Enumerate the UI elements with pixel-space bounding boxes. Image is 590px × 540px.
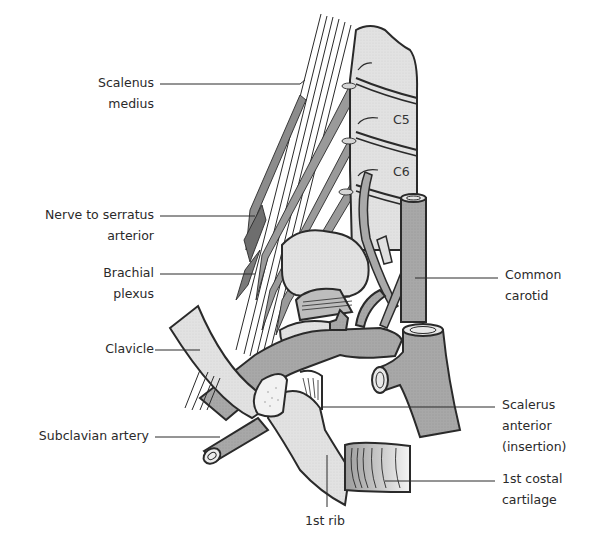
label-line: carotid: [505, 285, 561, 306]
label-line: Clavicle: [105, 338, 154, 359]
label-common-carotid: Common carotid: [505, 264, 561, 306]
subclavian-artery-distal: [201, 418, 268, 467]
label-line: Scalerus: [502, 394, 566, 415]
label-clavicle: Clavicle: [105, 338, 154, 359]
vertebra-label-c6: C6: [393, 164, 410, 179]
label-first-rib: 1st rib: [305, 510, 345, 531]
label-scalenus-anterior: Scalerus anterior (insertion): [502, 394, 566, 457]
label-nerve-to-serratus: Nerve to serratus arterior: [45, 204, 154, 246]
label-line: cartilage: [502, 489, 562, 510]
anatomy-illustration: [0, 0, 590, 540]
label-line: plexus: [103, 283, 154, 304]
label-line: Subclavian artery: [39, 425, 149, 446]
label-line: Common: [505, 264, 561, 285]
label-line: arterior: [45, 225, 154, 246]
first-costal-cartilage: [345, 443, 410, 492]
label-line: anterior: [502, 415, 566, 436]
label-line: Nerve to serratus: [45, 204, 154, 225]
common-carotid-artery: [401, 194, 426, 322]
label-line: Brachial: [103, 262, 154, 283]
vertebra-label-c5: C5: [393, 112, 410, 127]
label-line: 1st costal: [502, 468, 562, 489]
label-line: 1st rib: [305, 510, 345, 531]
label-line: Scalenus: [98, 72, 154, 93]
label-brachial-plexus: Brachial plexus: [103, 262, 154, 304]
label-subclavian-artery: Subclavian artery: [39, 425, 149, 446]
label-line: medius: [98, 93, 154, 114]
label-line: (insertion): [502, 436, 566, 457]
label-scalenus-medius: Scalenus medius: [98, 72, 154, 114]
label-first-costal-cartilage: 1st costal cartilage: [502, 468, 562, 510]
